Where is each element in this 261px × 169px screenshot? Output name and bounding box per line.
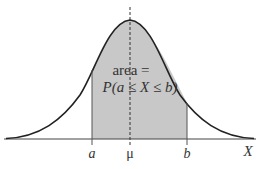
label-mu: μ xyxy=(126,146,134,161)
area-label-line1: area = xyxy=(112,62,149,78)
label-b: b xyxy=(184,146,191,161)
normal-curve-diagram: area = P(a ≤ X ≤ b) a μ b X xyxy=(0,0,261,169)
label-a: a xyxy=(89,146,96,161)
area-label-line2: P(a ≤ X ≤ b) xyxy=(102,79,178,96)
label-x: X xyxy=(242,143,253,159)
